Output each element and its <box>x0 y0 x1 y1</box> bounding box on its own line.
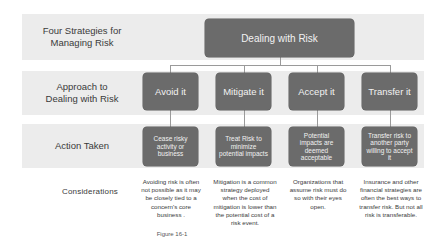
action-box-avoid: Cease risky activity or business <box>143 127 198 166</box>
connector-accept <box>317 65 318 73</box>
consideration-mitigate: Mitigation is a common strategy deployed… <box>213 178 277 227</box>
consideration-avoid: Avoiding risk is often not possible as i… <box>139 178 203 219</box>
connector-avoid <box>170 65 171 73</box>
considerations-row-label: Considerations <box>55 187 125 196</box>
connector-mitigate <box>244 65 245 73</box>
root-box-dealing-with-risk: Dealing with Risk <box>205 19 354 57</box>
action-row-label: Action Taken <box>22 124 142 168</box>
root-connector-vertical <box>280 57 281 65</box>
approach-box-mitigate: Mitigate it <box>216 73 271 110</box>
approach-row-label: Approach to Dealing with Risk <box>22 71 142 115</box>
connector-transfer <box>390 65 391 73</box>
strategies-row-label: Four Strategies for Managing Risk <box>22 14 142 60</box>
action-box-accept: Potential impacts are deemed acceptable <box>289 127 344 166</box>
connector-transfer-action <box>390 110 391 127</box>
connector-accept-action <box>317 110 318 127</box>
approach-box-accept: Accept it <box>289 73 344 110</box>
approach-box-transfer: Transfer it <box>362 73 417 110</box>
action-box-mitigate: Treat Risk to minimize potential impacts <box>216 127 271 166</box>
branch-connector-horizontal <box>170 65 391 66</box>
approach-box-avoid: Avoid it <box>143 73 198 110</box>
consideration-transfer: Insurance and other financial strategies… <box>359 178 423 219</box>
connector-avoid-action <box>170 110 171 127</box>
action-box-transfer: Transfer risk to another party willing t… <box>362 127 417 166</box>
figure-caption: Figure 16-1 <box>142 231 202 237</box>
consideration-accept: Organizations that assume risk must do s… <box>286 178 350 211</box>
connector-mitigate-action <box>244 110 245 127</box>
